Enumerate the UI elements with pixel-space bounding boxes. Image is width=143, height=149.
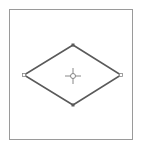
vertex-handle-left[interactable] <box>23 74 26 77</box>
vertex-handle-bottom[interactable] <box>72 104 75 107</box>
crosshair-icon[interactable] <box>65 68 81 84</box>
vertex-handle-top[interactable] <box>72 44 75 47</box>
vertex-handle-right[interactable] <box>120 74 123 77</box>
diagram-canvas <box>0 0 143 149</box>
